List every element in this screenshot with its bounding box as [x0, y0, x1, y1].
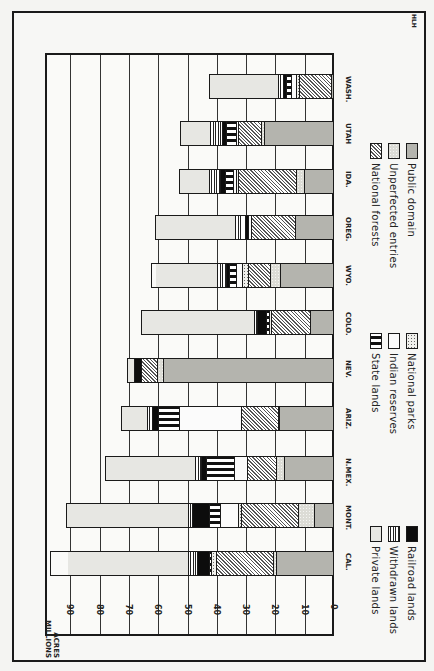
legend-item: National parks: [404, 335, 420, 430]
segment-indian-reserves: [179, 407, 241, 430]
segment-state-lands: [206, 457, 234, 480]
bar-wash: [209, 74, 334, 99]
segment-withdrawn-lands: [210, 122, 222, 145]
segment-state-lands: [225, 170, 234, 193]
segment-private-lands: [179, 170, 209, 193]
legend-label: Withdrawn lands: [389, 546, 400, 634]
legend-swatch: [370, 333, 382, 349]
legend-item: Withdrawn lands: [386, 528, 402, 634]
axis-tick-label: 80: [95, 604, 104, 615]
legend-swatch: [370, 526, 382, 542]
segment-private-lands: [105, 457, 194, 480]
segment-unperfected-entries: [296, 170, 303, 193]
axis-tick-label: 0: [329, 604, 338, 610]
segment-private-lands: [209, 75, 278, 98]
segment-private-lands: [68, 552, 188, 575]
axis-tick-label: 10: [300, 604, 309, 615]
category-label: OREG.: [344, 217, 352, 242]
segment-public-domain: [304, 170, 333, 193]
category-label: MONT.: [344, 505, 352, 530]
axis-tick-label: 50: [183, 604, 192, 615]
segment-indian-reserves: [234, 457, 246, 480]
segment-withdrawn-lands: [209, 170, 221, 193]
gridline: [70, 55, 71, 634]
segment-public-domain: [284, 457, 333, 480]
segment-national-forests: [299, 75, 331, 98]
legend-label: Unperfected entries: [389, 163, 400, 268]
segment-state-lands: [229, 264, 236, 287]
segment-indian-reserves: [220, 504, 238, 527]
segment-public-domain: [280, 264, 333, 287]
segment-private-lands: [155, 216, 235, 239]
bar-colo: [141, 310, 334, 335]
category-label: CAL.: [344, 553, 352, 571]
segment-public-domain: [310, 311, 333, 334]
segment-public-domain: [295, 216, 333, 239]
segment-national-forests: [141, 359, 157, 382]
gridline: [158, 55, 159, 634]
legend-item: Private lands: [368, 528, 384, 615]
bar-nev: [127, 358, 334, 383]
segment-national-forests: [241, 504, 298, 527]
segment-unperfected-entries: [298, 504, 314, 527]
segment-national-forests: [216, 552, 273, 575]
axis-tick-label: 60: [153, 604, 162, 615]
segment-national-forests: [241, 407, 279, 430]
segment-unperfected-entries: [270, 264, 280, 287]
segment-withdrawn-lands: [188, 552, 197, 575]
axis-tick-label: 70: [124, 604, 133, 615]
segment-national-forests: [251, 216, 295, 239]
axis-tick-label: 30: [241, 604, 250, 615]
axis-title: ACRESMILLIONS: [44, 598, 60, 658]
bar-utah: [180, 121, 334, 146]
bar-ariz: [121, 406, 334, 431]
segment-private-lands: [180, 122, 210, 145]
bar-cal: [50, 551, 334, 576]
segment-state-lands: [209, 504, 221, 527]
axis-tick-label: 20: [270, 604, 279, 615]
legend-item: Railroad lands: [404, 528, 420, 621]
segment-state-lands: [158, 407, 179, 430]
segment-unperfected-entries: [276, 457, 284, 480]
legend-item: Public domain: [404, 145, 420, 237]
legend-swatch: [388, 526, 400, 542]
segment-public-domain: [279, 407, 333, 430]
category-label: UTAH: [344, 123, 352, 144]
legend-label: State lands: [371, 353, 382, 413]
legend-label: Railroad lands: [407, 546, 418, 621]
legend-label: Public domain: [407, 163, 418, 237]
legend-swatch: [370, 143, 382, 159]
axis-tick-label: 90: [65, 604, 74, 615]
category-label: ARIZ.: [344, 408, 352, 429]
legend-label: Private lands: [371, 546, 382, 615]
legend-item: Indian reserves: [386, 335, 402, 434]
segment-railroad-lands: [134, 359, 141, 382]
segment-public-domain: [314, 504, 333, 527]
legend-swatch: [406, 333, 418, 349]
axis-tick-label: 40: [212, 604, 221, 615]
segment-railroad-lands: [197, 552, 209, 575]
bar-nmex: [105, 456, 334, 481]
segment-private-lands: [156, 264, 218, 287]
segment-withdrawn-lands: [235, 216, 245, 239]
segment-withdrawn-lands: [217, 264, 226, 287]
segment-national-forests: [238, 122, 261, 145]
legend-swatch: [388, 333, 400, 349]
credit-label: HLH: [411, 14, 418, 28]
legend-item: State lands: [368, 335, 384, 413]
segment-national-forests: [238, 170, 297, 193]
category-label: COLO.: [344, 312, 352, 336]
legend-swatch: [406, 526, 418, 542]
segment-private-lands: [121, 407, 147, 430]
segment-public-domain: [264, 122, 333, 145]
gridline: [100, 55, 101, 634]
category-label: WYO.: [344, 265, 352, 286]
segment-railroad-lands: [192, 504, 208, 527]
legend-swatch: [388, 143, 400, 159]
legend-item: Unperfected entries: [386, 145, 402, 268]
legend-item: National forests: [368, 145, 384, 247]
segment-private-lands: [66, 504, 188, 527]
gridline: [129, 55, 130, 634]
segment-public-domain: [276, 552, 333, 575]
category-label: NEV.: [344, 360, 352, 378]
